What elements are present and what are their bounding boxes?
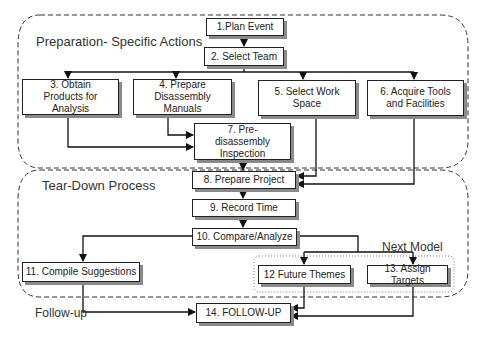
preparation-region-label: Preparation- Specific Actions (36, 34, 202, 49)
step-14-follow-up[interactable]: 14. FOLLOW-UP (196, 303, 291, 323)
step-11-compile-suggestions[interactable]: 11. Compile Suggestions (22, 262, 140, 282)
teardown-region-label: Tear-Down Process (42, 178, 155, 193)
step-4-prepare-manuals[interactable]: 4. Prepare Disassembly Manuals (133, 79, 232, 115)
step-2-select-team[interactable]: 2. Select Team (204, 47, 284, 66)
step-13-assign-targets[interactable]: 13. Assign Targets (367, 265, 448, 284)
follow-up-label: Follow-up (35, 306, 87, 320)
step-12-future-themes[interactable]: 12 Future Themes (258, 265, 351, 284)
next-model-label: Next Model (382, 240, 443, 254)
step-3-obtain-products[interactable]: 3. Obtain Products for Analysis (22, 79, 119, 115)
step-10-compare-analyze[interactable]: 10. Compare/Analyze (192, 228, 297, 246)
step-6-acquire-tools[interactable]: 6. Acquire Tools and Facilities (367, 80, 464, 116)
step-7-pre-disassembly-inspection[interactable]: 7. Pre-disassembly Inspection (194, 123, 291, 160)
step-8-prepare-project[interactable]: 8. Prepare Project (192, 171, 296, 189)
step-1-plan-event[interactable]: 1.Plan Event (206, 18, 284, 36)
step-9-record-time[interactable]: 9. Record Time (192, 199, 296, 217)
step-5-select-work-space[interactable]: 5. Select Work Space (258, 80, 356, 116)
